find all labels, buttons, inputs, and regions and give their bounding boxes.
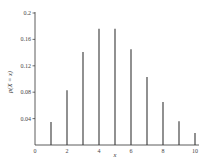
x-tick-label: 6 xyxy=(130,148,133,154)
x-tick-label: 10 xyxy=(192,148,198,154)
y-tick-label: 0.12 xyxy=(21,63,32,69)
y-tick-label: 0.16 xyxy=(21,36,32,42)
y-axis-label: p(X = x) xyxy=(6,71,14,94)
y-tick-label: 0.08 xyxy=(21,89,32,95)
x-axis-label: x xyxy=(113,151,117,158)
x-tick-label: 8 xyxy=(162,148,165,154)
x-tick-label: 4 xyxy=(98,148,101,154)
x-tick-label: 0 xyxy=(34,148,37,154)
stem-bars xyxy=(51,29,195,145)
y-tick-label: 0.2 xyxy=(24,10,32,16)
y-ticks: 0.040.080.120.160.2 xyxy=(21,10,36,122)
stem-chart: 0.040.080.120.160.2 0246810 x p(X = x) xyxy=(0,0,208,159)
y-tick-label: 0.04 xyxy=(21,116,32,122)
x-tick-label: 2 xyxy=(66,148,69,154)
